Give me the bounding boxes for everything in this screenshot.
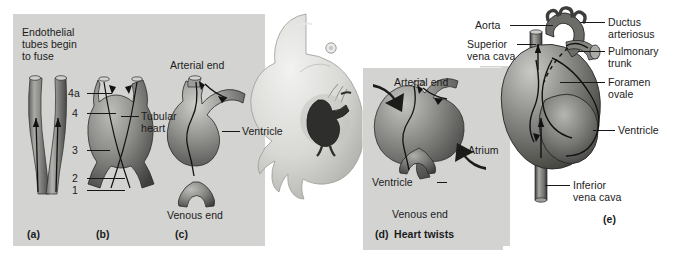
leader-superior-vena-cava xyxy=(517,44,536,45)
fetal-heart-art xyxy=(501,8,600,202)
leader-3 xyxy=(87,150,110,151)
leader-aorta xyxy=(510,25,553,26)
panel-d-atrium-label: Atrium xyxy=(468,144,499,156)
panel-e-key: (e) xyxy=(603,213,616,225)
label-pulmonary-trunk-line2: trunk xyxy=(608,57,632,69)
leader-ductus-arteriosus xyxy=(580,22,605,23)
panel-b-number-1: 1 xyxy=(72,184,78,196)
panel-d-venous-end-label: Venous end xyxy=(392,208,448,220)
panel-b-number-4a: 4a xyxy=(68,87,80,99)
label-ductus-arteriosus-line1: Ductus xyxy=(608,16,641,28)
label-pulmonary-trunk-line1: Pulmonary xyxy=(608,45,659,57)
panel-a-key: (a) xyxy=(27,228,40,240)
label-foramen-ovale-line1: Foramen xyxy=(608,76,650,88)
label-ventricle-e: Ventricle xyxy=(618,124,659,136)
label-aorta: Aorta xyxy=(475,19,500,31)
leader-4a xyxy=(87,93,112,94)
leader-ventricle-d xyxy=(437,182,447,183)
figure-root: Endothelial tubes begin to fuse 4a 4 3 2… xyxy=(0,0,677,261)
panel-b-key: (b) xyxy=(96,228,110,240)
leader-tubular-heart xyxy=(121,116,139,117)
label-inferior-vena-cava-line1: Inferior xyxy=(573,179,606,191)
panel-d-arterial-end-label: Arterial end xyxy=(394,76,448,88)
panel-a-caption-line3: to fuse xyxy=(22,50,54,62)
panel-d-background xyxy=(363,68,503,250)
panel-a-caption-line1: Endothelial xyxy=(22,26,75,38)
leader-ventricle-e xyxy=(593,130,615,131)
panel-d-caption: Heart twists xyxy=(394,228,454,240)
panel-c-arterial-end-label: Arterial end xyxy=(170,59,224,71)
leader-4 xyxy=(87,113,116,114)
leader-1 xyxy=(87,190,125,191)
label-superior-vena-cava-line1: Superior xyxy=(467,38,507,50)
leader-ventricle-c xyxy=(222,131,240,132)
panel-b-label-line1: Tubular xyxy=(141,110,177,122)
panel-b-number-2: 2 xyxy=(72,172,78,184)
panel-d-key: (d) xyxy=(375,228,389,240)
leader-foramen-ovale xyxy=(560,82,605,83)
panel-b-number-3: 3 xyxy=(72,144,78,156)
label-inferior-vena-cava-line2: vena cava xyxy=(573,191,621,203)
leader-inferior-vena-cava xyxy=(545,185,570,186)
panel-b-number-4: 4 xyxy=(72,107,78,119)
panel-a-caption-line2: tubes begin xyxy=(22,38,77,50)
panel-b-label-line2: heart xyxy=(141,122,165,134)
leader-pulmonary-trunk xyxy=(578,51,605,52)
panel-c-key: (c) xyxy=(175,228,188,240)
label-ductus-arteriosus-line2: arteriosus xyxy=(608,28,655,40)
embryo-art xyxy=(251,14,364,199)
leader-2 xyxy=(87,178,125,179)
label-superior-vena-cava-line2: vena cava xyxy=(467,50,515,62)
label-foramen-ovale-line2: ovale xyxy=(608,88,633,100)
panel-c-ventricle-label: Ventricle xyxy=(242,125,283,137)
panel-c-venous-end-label: Venous end xyxy=(167,209,223,221)
panel-d-ventricle-label: Ventricle xyxy=(372,176,413,188)
leader-atrium-d xyxy=(456,150,467,151)
